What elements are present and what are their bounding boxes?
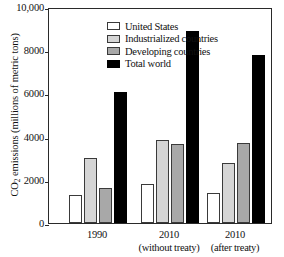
bar (84, 158, 97, 223)
light-gray-square-swatch (107, 35, 120, 43)
y-axis-tick-mark (45, 52, 49, 53)
legend-item: United States (107, 20, 237, 33)
medium-gray-square-swatch (107, 47, 120, 55)
x-axis-group-label: 2010(after treaty) (190, 228, 280, 254)
y-axis-tick-mark (45, 139, 49, 140)
bar (252, 55, 265, 223)
bar (141, 184, 154, 223)
legend-item: Developing countries (107, 45, 237, 58)
y-axis-tick-mark (45, 182, 49, 183)
legend-item-label: Developing countries (125, 46, 210, 57)
y-axis-tick-label: 2000 (0, 176, 44, 186)
y-axis-tick-mark (45, 95, 49, 96)
white-square-swatch (107, 22, 120, 30)
x-axis-group-label-year: 2010 (190, 228, 280, 241)
plot-area: United StatesIndustrialized countriesDev… (48, 8, 272, 224)
y-axis-tick-label: 10,000 (0, 3, 44, 13)
legend-item-label: Total world (125, 58, 171, 69)
y-axis-tick-mark (45, 225, 49, 226)
legend-item-label: Industrialized countries (125, 33, 218, 44)
legend-item: Total world (107, 58, 237, 71)
black-square-swatch (107, 60, 120, 68)
bar (171, 144, 184, 223)
legend-item-label: United States (125, 21, 178, 32)
legend-item: Industrialized countries (107, 33, 237, 46)
y-axis-tick-label: 0 (0, 219, 44, 229)
x-axis-group-label-note: (after treaty) (190, 241, 280, 254)
y-axis-tick-label: 4000 (0, 133, 44, 143)
y-axis-tick-label: 8000 (0, 46, 44, 56)
bar (207, 193, 220, 223)
y-axis-tick-labels: 0200040006000800010,000 (0, 0, 44, 257)
chart-legend: United StatesIndustrialized countriesDev… (107, 20, 237, 70)
bar (114, 92, 127, 223)
y-axis-tick-mark (45, 9, 49, 10)
bar (222, 163, 235, 223)
bar (99, 188, 112, 223)
co2-emissions-bar-chart: CO2 emissions (millions of metric tons) … (0, 0, 284, 257)
bar (156, 140, 169, 223)
bar (69, 195, 82, 223)
y-axis-tick-label: 6000 (0, 89, 44, 99)
bar (237, 143, 250, 223)
